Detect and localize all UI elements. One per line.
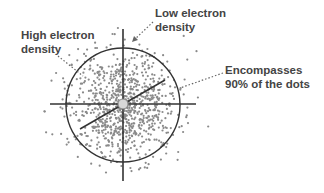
electron-dot	[124, 95, 126, 97]
electron-dot	[159, 89, 161, 91]
electron-dot	[93, 80, 95, 82]
electron-dot	[113, 75, 115, 77]
electron-dot	[128, 59, 130, 61]
electron-dot	[153, 96, 155, 98]
electron-dot	[145, 55, 147, 57]
electron-dot	[136, 66, 138, 68]
electron-dot	[79, 77, 81, 79]
electron-dot	[111, 82, 113, 84]
electron-dot	[91, 84, 93, 86]
electron-dot	[90, 90, 92, 92]
electron-dot	[128, 122, 130, 124]
electron-dot	[135, 89, 137, 91]
electron-dot	[96, 137, 98, 139]
electron-dot	[118, 131, 120, 133]
electron-dot	[150, 134, 152, 136]
electron-dot	[111, 80, 113, 82]
boundary-pointer	[180, 73, 223, 88]
electron-dot	[138, 127, 140, 129]
electron-dot	[164, 117, 166, 119]
electron-dot	[143, 115, 145, 117]
electron-dot	[115, 128, 117, 130]
electron-dot	[71, 84, 73, 86]
electron-dot	[138, 84, 140, 86]
electron-dot	[128, 134, 130, 136]
electron-dot	[109, 126, 111, 128]
electron-dot	[125, 125, 127, 127]
electron-dot	[96, 47, 98, 49]
electron-dot	[125, 149, 127, 151]
electron-dot	[110, 73, 112, 75]
electron-dot	[109, 117, 111, 119]
electron-dot	[161, 120, 163, 122]
electron-dot	[104, 89, 106, 91]
electron-dot	[79, 120, 81, 122]
electron-dot	[183, 35, 185, 37]
electron-dot	[116, 97, 118, 99]
electron-dot	[141, 55, 143, 57]
electron-dot	[154, 94, 156, 96]
electron-dot	[100, 82, 102, 84]
electron-dot	[95, 89, 97, 91]
electron-dot	[167, 112, 169, 114]
electron-dot	[140, 145, 142, 147]
electron-dot	[102, 92, 104, 94]
electron-dot	[160, 141, 162, 143]
electron-dot	[151, 123, 153, 125]
electron-dot	[152, 95, 154, 97]
electron-dot	[117, 145, 119, 147]
electron-dot	[148, 163, 150, 165]
electron-dot	[127, 148, 129, 150]
electron-dot	[70, 64, 72, 66]
electron-dot	[102, 122, 104, 124]
electron-dot	[106, 115, 108, 117]
electron-dot	[83, 115, 85, 117]
electron-dot	[99, 106, 101, 108]
electron-dot	[134, 79, 136, 81]
electron-dot	[116, 58, 118, 60]
electron-dot	[150, 94, 152, 96]
electron-dot	[103, 98, 105, 100]
electron-dot	[97, 132, 99, 134]
electron-dot	[148, 124, 150, 126]
electron-dot	[151, 119, 153, 121]
electron-dot	[131, 123, 133, 125]
electron-dot	[102, 95, 104, 97]
electron-dot	[187, 122, 189, 124]
nucleus-icon	[118, 99, 128, 109]
electron-dot	[144, 86, 146, 88]
electron-dot	[197, 96, 199, 98]
electron-dot	[64, 88, 66, 90]
electron-dot	[141, 62, 143, 64]
electron-dot	[98, 78, 100, 80]
electron-dot	[87, 105, 89, 107]
electron-dot	[169, 85, 171, 87]
electron-dot	[154, 52, 156, 54]
electron-dot	[115, 90, 117, 92]
electron-dot	[104, 137, 106, 139]
electron-dot	[103, 75, 105, 77]
electron-dot	[104, 126, 106, 128]
electron-dot	[128, 131, 130, 133]
electron-dot	[61, 108, 63, 110]
electron-dot	[157, 110, 159, 112]
electron-dot	[104, 128, 106, 130]
electron-dot	[105, 171, 107, 173]
electron-dot	[186, 114, 188, 116]
electron-dot	[78, 96, 80, 98]
electron-dot	[127, 139, 129, 141]
electron-dot	[172, 92, 174, 94]
electron-dot	[94, 95, 96, 97]
electron-dot	[116, 152, 118, 154]
boundary-label: Encompasses 90% of the dots	[225, 63, 310, 91]
electron-dot	[106, 96, 108, 98]
electron-dot	[130, 92, 132, 94]
electron-dot	[130, 147, 132, 149]
electron-dot	[51, 133, 53, 135]
electron-dot	[118, 111, 120, 113]
electron-dot	[125, 66, 127, 68]
electron-dot	[127, 151, 129, 153]
electron-dot	[141, 124, 143, 126]
electron-dot	[174, 86, 176, 88]
electron-dot	[88, 145, 90, 147]
